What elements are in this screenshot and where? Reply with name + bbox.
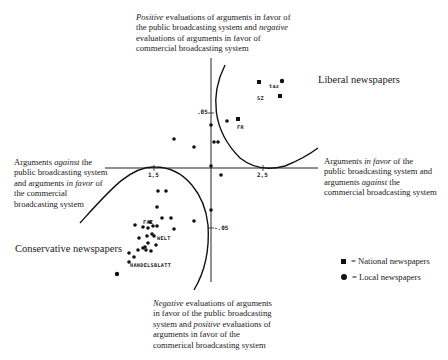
point-label-taz: taz bbox=[269, 83, 279, 89]
liberal-newspapers-label: Liberal newspapers bbox=[318, 74, 400, 86]
x-negative-tick-label: 1,5 bbox=[148, 171, 159, 178]
y-positive-tick-label: .05 bbox=[197, 108, 208, 115]
point-label-handelsblatt: HANDELSBLATT bbox=[130, 262, 171, 268]
legend-local: = Local newspapers bbox=[341, 272, 421, 282]
legend-national: = National newspapers bbox=[341, 256, 430, 266]
point-label-sz: SZ bbox=[257, 95, 264, 101]
x-positive-tick-label: 2,5 bbox=[257, 171, 268, 178]
liberal-boundary-curve bbox=[216, 65, 318, 168]
top-quadrant-label: Positive evaluations of arguments in fav… bbox=[136, 12, 336, 54]
conservative-newspapers-label: Conservative newspapers bbox=[15, 243, 122, 255]
left-quadrant-label: Arguments against the public broadcastin… bbox=[14, 157, 114, 209]
point-label-welt: WELT bbox=[157, 235, 171, 241]
bottom-quadrant-label: Negative evaluations of arguments in fav… bbox=[153, 298, 323, 350]
point-label-fr: FR bbox=[237, 124, 244, 130]
right-quadrant-label: Arguments in favor of the public broadca… bbox=[324, 156, 448, 198]
square-marker-icon bbox=[341, 259, 346, 264]
dot-marker-icon bbox=[341, 274, 347, 280]
y-negative-tick-label: -.05 bbox=[214, 224, 228, 231]
point-label-faz: FAZ bbox=[143, 219, 153, 225]
